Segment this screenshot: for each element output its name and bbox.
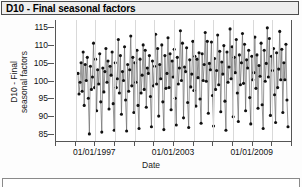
x-axis-tick-labels: 01/01/199701/01/200301/01/2009	[0, 147, 302, 159]
vertical-gridline	[213, 20, 214, 141]
data-point-marker	[254, 87, 257, 90]
data-point-marker	[268, 37, 271, 40]
data-point-marker	[237, 120, 240, 123]
data-point-marker	[160, 43, 163, 46]
data-point-marker	[90, 88, 93, 91]
data-point-marker	[157, 115, 160, 118]
x-axis-tick-label: 01/01/2009	[230, 147, 273, 157]
data-point-marker	[79, 81, 82, 84]
data-point-marker	[188, 58, 191, 61]
data-point-marker	[155, 83, 158, 86]
data-point-marker	[277, 68, 280, 71]
x-axis-tick-mark	[173, 142, 174, 146]
data-point-marker	[106, 59, 109, 62]
data-point-marker	[185, 46, 188, 49]
data-point-marker	[257, 64, 260, 67]
data-point-marker	[203, 63, 206, 66]
panel-title-bar: D10 - Final seasonal factors	[1, 1, 299, 15]
data-point-marker	[219, 110, 222, 113]
x-axis-tick-mark	[193, 142, 194, 146]
data-point-marker	[260, 42, 263, 45]
data-point-marker	[146, 66, 149, 69]
data-point-marker	[170, 108, 173, 111]
y-axis-tick-mark	[48, 63, 54, 64]
x-axis-tick-mark	[232, 142, 233, 146]
data-point-marker	[84, 63, 87, 66]
vertical-gridline	[154, 20, 155, 141]
data-point-marker	[124, 99, 127, 102]
data-point-marker	[141, 74, 144, 77]
data-point-marker	[204, 31, 207, 34]
vertical-gridline	[233, 20, 234, 141]
plot-frame	[55, 20, 292, 142]
data-point-marker	[241, 32, 244, 35]
data-point-marker	[159, 77, 162, 80]
data-point-marker	[274, 121, 277, 124]
data-point-marker	[97, 83, 100, 86]
data-point-marker	[116, 77, 119, 80]
vertical-gridline	[253, 20, 254, 141]
data-point-marker	[220, 60, 223, 63]
data-point-marker	[100, 131, 103, 134]
data-point-marker	[261, 103, 264, 106]
data-point-marker	[205, 80, 208, 83]
data-point-marker	[187, 126, 190, 129]
data-point-marker	[223, 100, 226, 103]
data-point-marker	[161, 100, 164, 103]
data-point-marker	[196, 76, 199, 79]
y-axis-tick-label: 90	[22, 112, 48, 120]
vertical-gridline	[115, 20, 116, 141]
data-point-marker	[227, 65, 230, 68]
data-point-marker	[214, 88, 217, 91]
data-point-marker	[178, 66, 181, 69]
data-point-marker	[280, 48, 283, 51]
y-axis-tick-label: 95	[22, 94, 48, 102]
data-point-marker	[243, 43, 246, 46]
data-point-marker	[201, 52, 204, 55]
data-point-marker	[286, 125, 289, 128]
data-point-marker	[264, 80, 267, 83]
x-axis-tick-mark	[114, 142, 115, 146]
data-point-marker	[164, 87, 167, 90]
data-point-marker	[119, 54, 122, 57]
data-point-marker	[109, 65, 112, 68]
x-axis-tick-mark	[271, 142, 272, 146]
vertical-gridline	[174, 20, 175, 141]
data-point-marker	[158, 63, 161, 66]
data-point-marker	[226, 81, 229, 84]
data-point-marker	[242, 82, 245, 85]
data-point-marker	[235, 38, 238, 41]
data-point-marker	[150, 125, 153, 128]
data-point-marker	[200, 122, 203, 125]
data-point-marker	[126, 63, 129, 66]
data-point-marker	[182, 116, 185, 119]
data-point-marker	[217, 83, 220, 86]
data-point-marker	[207, 112, 210, 115]
data-point-marker	[215, 69, 218, 72]
data-point-marker	[107, 107, 110, 110]
y-axis-tick-mark	[48, 45, 54, 46]
data-point-marker	[267, 75, 270, 78]
data-point-marker	[221, 73, 224, 76]
data-point-marker	[121, 70, 124, 73]
y-axis-tick-mark	[48, 98, 54, 99]
data-point-marker	[102, 90, 105, 93]
data-point-marker	[234, 71, 237, 74]
data-point-marker	[238, 53, 241, 56]
data-point-marker	[96, 68, 99, 71]
data-point-marker	[136, 104, 139, 107]
data-point-marker	[128, 68, 131, 71]
data-point-marker	[163, 54, 166, 57]
data-point-marker	[91, 75, 94, 78]
data-point-marker	[98, 52, 101, 55]
x-axis-tick-label: 01/01/2003	[152, 147, 195, 157]
data-point-marker	[256, 107, 259, 110]
data-point-marker	[105, 81, 108, 84]
data-point-marker	[225, 50, 228, 53]
data-point-marker	[266, 26, 269, 29]
data-point-marker	[273, 93, 276, 96]
data-point-marker	[208, 62, 211, 65]
x-axis-tick-label: 01/01/1997	[73, 147, 116, 157]
data-point-marker	[190, 73, 193, 76]
data-point-marker	[262, 127, 265, 130]
